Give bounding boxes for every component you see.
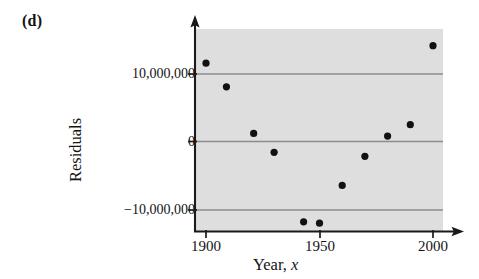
data-point: [202, 60, 209, 67]
data-point: [429, 42, 436, 49]
scatter-plot: [0, 0, 479, 279]
data-point: [407, 121, 414, 128]
data-point: [384, 133, 391, 140]
figure-panel-d: (d) Residuals Year, x 10,000,000 0 −10,0…: [0, 0, 479, 279]
data-point: [339, 182, 346, 189]
data-point: [300, 218, 307, 225]
data-point: [361, 153, 368, 160]
data-point: [271, 149, 278, 156]
plot-area-background: [195, 29, 443, 232]
data-point: [316, 220, 323, 227]
data-point: [223, 83, 230, 90]
data-point: [250, 130, 257, 137]
